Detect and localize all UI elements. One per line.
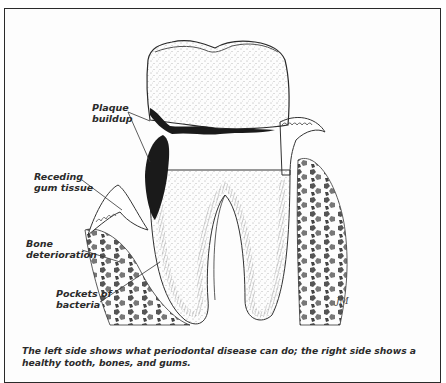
label-plaque-buildup: Plaque buildup — [92, 102, 132, 124]
figure-caption: The left side shows what periodontal dis… — [22, 345, 432, 369]
label-bone-deterioration: Bone deterioration — [26, 238, 97, 260]
receding-gum — [88, 185, 148, 235]
label-receding-gum: Receding gum tissue — [34, 171, 93, 193]
tooth-roots — [150, 170, 290, 324]
artist-signature: JM — [334, 296, 350, 306]
tooth-crown — [147, 41, 289, 129]
label-pockets-of-bacteria: Pockets of bacteria — [56, 288, 112, 310]
